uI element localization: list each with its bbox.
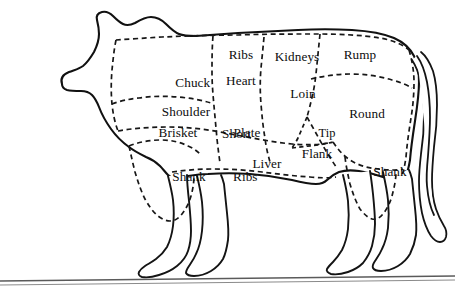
cut-label-chuck-line2: Shoulder <box>138 105 234 119</box>
cut-label-brisket: Brisket <box>143 126 213 140</box>
cut-label-chuck-line1: Chuck <box>175 75 210 90</box>
cut-label-flank: Flank <box>289 147 345 161</box>
cut-label-ribs: Ribs <box>213 48 269 62</box>
cut-label-plate: Plate <box>219 126 275 140</box>
cut-label-liver: Liver <box>240 157 294 171</box>
cut-label-loin: Loin <box>277 87 329 101</box>
cut-label-heart: Heart <box>212 74 270 88</box>
cut-label-shank-front: Shank <box>159 170 219 184</box>
cow-front-leg-near <box>139 175 191 277</box>
cut-label-kidneys: Kidneys <box>266 50 328 64</box>
cut-label-shank-rear: Shank <box>360 165 420 179</box>
cut-label-round: Round <box>333 107 401 121</box>
cut-label-tip: Tip <box>310 127 344 141</box>
beef-cuts-diagram: Chuck Shoulder Ribs Heart Short Ribs Kid… <box>0 0 455 291</box>
cut-label-short-ribs-line2: Ribs <box>222 170 284 184</box>
cut-label-rump: Rump <box>329 48 391 62</box>
